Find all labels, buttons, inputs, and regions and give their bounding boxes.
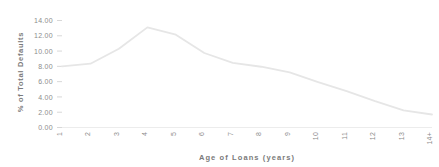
defaults-series-line — [62, 27, 432, 114]
x-axis-tick-label: 14+ — [426, 132, 433, 144]
chart-container: 0.002.004.006.008.0010.0012.0014.00 1234… — [0, 0, 439, 167]
x-axis-tick-label: 13 — [398, 132, 405, 140]
y-axis-tick-label: 4.00 — [38, 94, 53, 101]
x-axis-tick-label: 5 — [170, 132, 177, 136]
x-axis-tick-label: 2 — [84, 132, 91, 136]
x-axis-tick-label: 8 — [255, 132, 262, 136]
x-axis-title: Age of Loans (years) — [199, 153, 295, 162]
x-axis-tick-label: 12 — [369, 132, 376, 140]
line-chart: 0.002.004.006.008.0010.0012.0014.00 1234… — [0, 0, 439, 167]
y-axis-tick-labels: 0.002.004.006.008.0010.0012.0014.00 — [34, 17, 53, 131]
y-axis-tick-label: 6.00 — [38, 78, 53, 85]
x-axis-tick-label: 1 — [56, 132, 63, 136]
y-axis-tick-label: 8.00 — [38, 63, 53, 70]
x-axis-tick-label: 10 — [312, 132, 319, 140]
y-axis-tick-label: 12.00 — [34, 32, 53, 39]
x-axis-tick-labels: 1234567891011121314+ — [56, 132, 433, 144]
y-axis-tick-label: 14.00 — [34, 17, 53, 24]
y-axis-title: % of Total Defaults — [16, 32, 25, 112]
x-axis-tick-label: 6 — [198, 132, 205, 136]
y-axis-tick-marks — [57, 21, 62, 128]
y-axis-tick-label: 10.00 — [34, 48, 53, 55]
x-axis-tick-label: 4 — [141, 132, 148, 136]
y-axis-tick-label: 0.00 — [38, 124, 53, 131]
y-axis-tick-label: 2.00 — [38, 109, 53, 116]
x-axis-tick-label: 3 — [113, 132, 120, 136]
x-axis-tick-label: 11 — [341, 132, 348, 140]
x-axis-tick-label: 9 — [284, 132, 291, 136]
x-axis-tick-label: 7 — [227, 132, 234, 136]
